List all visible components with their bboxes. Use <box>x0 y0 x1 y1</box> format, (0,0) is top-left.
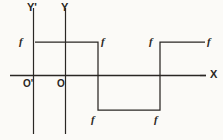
curve-label-upper-left-end: f <box>101 36 105 47</box>
curve-label-upper-right-end: f <box>207 36 211 47</box>
curve-label-upper-left-start: f <box>19 36 23 47</box>
square-wave-figure: Y' Y X O' O f f f f f f <box>0 0 223 140</box>
y-prime-axis-label: Y' <box>27 2 37 13</box>
x-axis-label: X <box>210 69 217 80</box>
origin-label: O <box>57 79 65 89</box>
origin-prime-label: O' <box>23 79 33 89</box>
figure-canvas <box>0 0 223 140</box>
y-axis-label: Y <box>61 2 68 13</box>
curve-label-upper-right-start: f <box>149 36 153 47</box>
curve-label-lower-left-end: f <box>91 114 95 125</box>
curve-label-lower-right-end: f <box>154 114 158 125</box>
